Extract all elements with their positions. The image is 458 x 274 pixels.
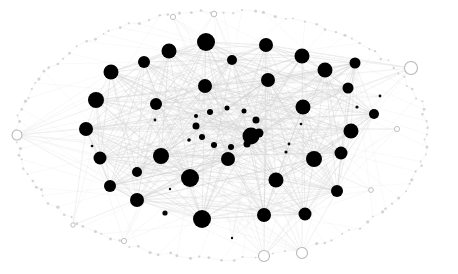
graph-node-hub: [350, 58, 361, 69]
network-graph-canvas[interactable]: [0, 0, 458, 274]
graph-node-hub: [88, 92, 104, 108]
graph-node-perimeter: [259, 251, 270, 262]
graph-node-hub: [132, 167, 142, 177]
graph-node-hub: [369, 109, 379, 119]
graph-node-hub: [197, 33, 215, 51]
graph-node-inner: [199, 134, 205, 140]
graph-node-inner: [225, 106, 230, 111]
graph-node-hub: [198, 79, 212, 93]
graph-node-hub: [79, 122, 93, 136]
graph-node-perimeter: [405, 62, 418, 75]
graph-node-inner: [187, 138, 191, 142]
graph-node-tiny: [379, 95, 382, 98]
graph-node-hub: [269, 173, 284, 188]
graph-node-perimeter: [170, 14, 175, 19]
graph-node-inner: [242, 109, 247, 114]
graph-node-perimeter: [12, 130, 22, 140]
graph-node-hub: [150, 98, 162, 110]
graph-node-hub: [138, 56, 150, 68]
graph-node-inner: [194, 114, 198, 118]
graph-node-hub: [153, 148, 169, 164]
graph-node-tiny: [154, 119, 157, 122]
graph-node-hub: [344, 124, 359, 139]
graph-node-hub: [261, 73, 275, 87]
graph-node-hub: [227, 55, 237, 65]
graph-node-inner: [211, 142, 217, 148]
graph-node-hub: [162, 44, 177, 59]
graph-node-hub: [343, 83, 354, 94]
graph-node-inner: [207, 109, 213, 115]
graph-node-tiny: [231, 237, 233, 239]
graph-node-hub: [243, 128, 260, 145]
graph-node-hub: [296, 100, 311, 115]
graph-node-hub: [193, 210, 211, 228]
graph-node-perimeter: [394, 126, 399, 131]
graph-node-perimeter: [211, 11, 217, 17]
graph-node-hub: [331, 185, 343, 197]
graph-node-hub: [257, 208, 271, 222]
graph-node-tiny: [284, 150, 287, 153]
graph-node-perimeter: [369, 188, 374, 193]
graph-node-hub: [94, 152, 107, 165]
graph-node-hub: [295, 49, 310, 64]
graph-node-perimeter: [297, 248, 308, 259]
graph-node-perimeter: [71, 223, 75, 227]
graph-node-tiny: [91, 145, 94, 148]
graph-node-hub: [259, 38, 273, 52]
graph-node-hub: [104, 180, 116, 192]
graph-node-tiny: [162, 210, 167, 215]
graph-node-tiny: [169, 188, 171, 190]
graph-node-hub: [306, 151, 322, 167]
graph-node-hub: [104, 65, 119, 80]
graph-node-hub: [299, 208, 312, 221]
graph-node-inner: [228, 144, 234, 150]
graph-node-hub: [181, 169, 199, 187]
graph-node-inner: [253, 117, 260, 124]
graph-node-perimeter: [121, 238, 126, 243]
graph-node-hub: [335, 147, 348, 160]
graph-node-tiny: [300, 123, 303, 126]
graph-node-hub: [221, 152, 235, 166]
graph-node-tiny: [288, 143, 291, 146]
graph-node-tiny: [355, 105, 358, 108]
graph-node-hub: [318, 63, 333, 78]
network-graph-figure: [0, 0, 458, 274]
graph-node-inner: [193, 123, 200, 130]
graph-node-hub: [130, 193, 144, 207]
